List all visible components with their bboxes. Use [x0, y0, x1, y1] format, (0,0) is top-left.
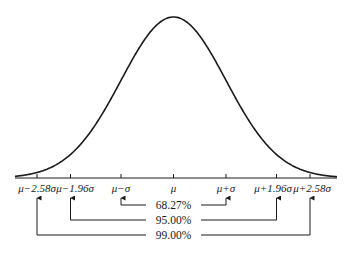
- tick-labels: μ−2.58σ μ−1.96σ μ−σ μ μ+σ μ+1.96σ μ+2.58…: [17, 182, 331, 194]
- interval-68-label: 68.27%: [156, 199, 192, 211]
- interval-99-label: 99.00%: [156, 229, 192, 241]
- tick-label: μ+σ: [216, 182, 236, 194]
- bell-curve: [15, 17, 337, 177]
- tick-label: μ−1.96σ: [55, 182, 94, 194]
- interval-95-label: 95.00%: [156, 214, 192, 226]
- normal-distribution-diagram: μ−2.58σ μ−1.96σ μ−σ μ μ+σ μ+1.96σ μ+2.58…: [0, 0, 346, 253]
- tick-label: μ−2.58σ: [17, 182, 56, 194]
- tick-label: μ: [170, 182, 177, 194]
- axis-ticks: [37, 174, 310, 178]
- tick-label: μ+2.58σ: [292, 182, 331, 194]
- tick-label: μ−σ: [111, 182, 131, 194]
- tick-label: μ+1.96σ: [253, 182, 292, 194]
